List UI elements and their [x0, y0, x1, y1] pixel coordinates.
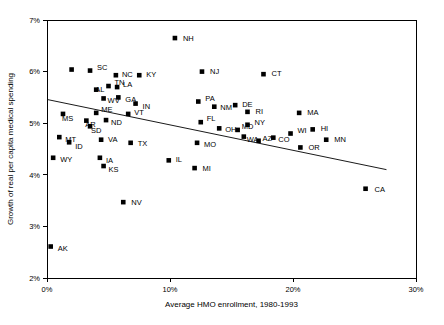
data-point-NV [121, 200, 126, 205]
data-point-GA [116, 95, 121, 100]
data-point-label-NH: NH [183, 34, 194, 43]
data-point-KY [137, 73, 142, 78]
data-point-TN [106, 84, 111, 89]
data-point-ND [104, 118, 109, 123]
chart-container: 2%3%4%5%6%7%0%10%20%30%Average HMO enrol… [0, 0, 444, 325]
data-point-NM [212, 104, 217, 109]
data-point-label-MS: MS [62, 114, 73, 123]
data-point-label-RI: RI [255, 107, 262, 116]
data-point-HI [310, 127, 315, 132]
data-point-FL [198, 120, 203, 125]
data-point-CO [271, 135, 276, 140]
data-point-ME [94, 111, 99, 116]
data-point-label-LA: LA [123, 80, 132, 89]
data-point-label-AK: AK [58, 244, 68, 253]
data-point-IN [133, 101, 138, 106]
data-point-label-WI: WI [298, 126, 307, 135]
data-point-label-VA: VA [108, 135, 117, 144]
data-point-OR [298, 145, 303, 150]
data-point-label-NM: NM [220, 103, 232, 112]
data-point [69, 67, 74, 72]
data-point-label-MI: MI [203, 164, 211, 173]
data-point-CT [261, 72, 266, 77]
data-point-VA [99, 137, 104, 142]
data-point-RI [245, 110, 250, 115]
data-point-IA [98, 155, 103, 160]
data-point-label-MA: MA [307, 108, 318, 117]
data-point-label-KY: KY [146, 70, 156, 79]
data-point-WV [101, 96, 106, 101]
data-point-NC [114, 73, 119, 78]
data-point-label-OR: OR [308, 143, 320, 152]
data-point-WY [51, 155, 56, 160]
data-point-DE [233, 103, 238, 108]
data-point-label-TX: TX [138, 139, 148, 148]
y-axis-title: Growth of real per capita medical spendi… [6, 73, 15, 225]
data-point-label-AL: AL [95, 85, 104, 94]
x-tick-label-30%: 30% [408, 285, 423, 294]
y-tick-label-3%: 3% [29, 222, 40, 231]
data-point-OH [217, 126, 222, 131]
data-point-label-MN: MN [334, 135, 346, 144]
data-point-label-OH: OH [225, 125, 236, 134]
data-point-label-DE: DE [242, 100, 252, 109]
data-point-label-NY: NY [254, 118, 264, 127]
data-point-label-SD: SD [91, 126, 102, 135]
data-point-label-NJ: NJ [210, 67, 219, 76]
plot-frame [47, 20, 416, 278]
y-tick-label-4%: 4% [29, 171, 40, 180]
data-point-label-IA: IA [106, 156, 113, 165]
data-point-MO [195, 141, 200, 146]
data-point-MD [235, 128, 240, 133]
scatter-plot: 2%3%4%5%6%7%0%10%20%30%Average HMO enrol… [0, 0, 444, 325]
data-point-AZ [256, 138, 261, 143]
data-point-CA [363, 186, 368, 191]
data-point-label-FL: FL [207, 114, 216, 123]
y-tick-label-2%: 2% [29, 274, 40, 283]
data-point-label-CA: CA [375, 185, 385, 194]
data-point-label-ND: ND [111, 118, 122, 127]
data-point-label-SC: SC [97, 63, 108, 72]
y-tick-label-6%: 6% [29, 67, 40, 76]
data-point-label-CT: CT [271, 69, 281, 78]
y-tick-label-7%: 7% [29, 16, 40, 25]
x-tick-label-10%: 10% [162, 285, 177, 294]
data-point-label-VT: VT [134, 108, 144, 117]
data-point-AK [48, 244, 53, 249]
data-point-label-KS: KS [109, 165, 119, 174]
x-axis-title: Average HMO enrollment, 1980-1993 [165, 300, 298, 309]
data-point-WI [288, 131, 293, 136]
data-point-SC [88, 68, 93, 73]
data-point-MI [192, 166, 197, 171]
data-point-label-WY: WY [60, 155, 72, 164]
data-point-IL [166, 158, 171, 163]
data-point-label-ID: ID [75, 142, 83, 151]
data-point-MA [297, 111, 302, 116]
data-point-NJ [200, 69, 205, 74]
data-point-LA [115, 85, 120, 90]
data-point-label-NV: NV [131, 198, 141, 207]
x-tick-label-20%: 20% [285, 285, 300, 294]
data-point-WA [242, 134, 247, 139]
data-point-label-HI: HI [321, 124, 329, 133]
data-point-KS [101, 164, 106, 169]
data-point-VT [126, 112, 131, 117]
data-point-MN [324, 137, 329, 142]
data-point-MT [57, 135, 62, 140]
data-point-label-IL: IL [176, 155, 182, 164]
data-point-ID [67, 140, 72, 145]
data-point-NH [173, 36, 178, 41]
data-point-label-CO: CO [278, 135, 289, 144]
data-point-PA [196, 99, 201, 104]
data-point-label-PA: PA [205, 94, 214, 103]
data-point-label-MO: MO [204, 140, 216, 149]
data-point-label-ME: ME [101, 105, 112, 114]
data-point-TX [128, 141, 133, 146]
x-tick-label-0%: 0% [42, 285, 53, 294]
data-point-NY [245, 122, 250, 127]
y-tick-label-5%: 5% [29, 119, 40, 128]
